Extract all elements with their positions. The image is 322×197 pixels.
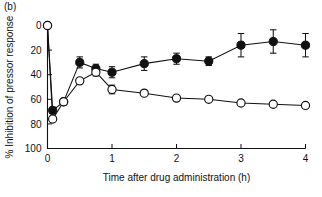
series-line-open-circles <box>48 26 306 119</box>
figure-panel-b: (b) 02040608010001234 Time after drug ad… <box>0 0 322 197</box>
line-chart: 02040608010001234 Time after drug admini… <box>0 0 322 197</box>
y-tick-label: 20 <box>30 45 42 56</box>
data-point-open-circles <box>301 101 309 109</box>
data-point-open-circles <box>108 85 116 93</box>
x-tick-label: 4 <box>303 153 309 164</box>
data-point-filled-circles <box>301 41 309 49</box>
x-axis-title: Time after drug administration (h) <box>103 172 250 183</box>
x-tick-label: 2 <box>174 153 180 164</box>
y-tick-label: 100 <box>25 143 42 154</box>
data-point-filled-circles <box>269 37 277 45</box>
data-point-open-circles <box>43 21 51 29</box>
data-point-open-circles <box>92 68 100 76</box>
data-point-filled-circles <box>237 41 245 49</box>
x-tick-label: 0 <box>45 153 51 164</box>
data-point-open-circles <box>237 99 245 107</box>
data-point-filled-circles <box>108 68 116 76</box>
y-axis-title: % Inhibition of pressor response <box>4 15 15 158</box>
data-point-open-circles <box>49 115 57 123</box>
panel-label: (b) <box>4 1 16 13</box>
y-tick-label: 40 <box>30 69 42 80</box>
axis-spines <box>48 25 306 149</box>
data-point-open-circles <box>76 77 84 85</box>
data-point-open-circles <box>60 98 68 106</box>
data-series <box>43 21 309 123</box>
y-tick-label: 0 <box>36 20 42 31</box>
data-point-filled-circles <box>205 57 213 65</box>
data-point-open-circles <box>172 94 180 102</box>
y-tick-label: 80 <box>30 119 42 130</box>
data-point-open-circles <box>140 89 148 97</box>
data-point-filled-circles <box>76 58 84 66</box>
data-point-filled-circles <box>172 55 180 63</box>
x-tick-label: 1 <box>109 153 115 164</box>
data-point-open-circles <box>269 100 277 108</box>
x-tick-label: 3 <box>238 153 244 164</box>
data-point-open-circles <box>205 95 213 103</box>
data-point-filled-circles <box>140 60 148 68</box>
y-tick-label: 60 <box>30 94 42 105</box>
